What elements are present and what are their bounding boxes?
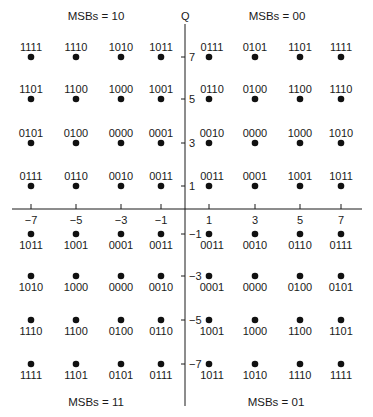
point-bit-label: 0110 (64, 170, 88, 182)
constellation-point: 1110 (20, 317, 43, 337)
constellation-point: 0101 (109, 361, 133, 381)
point-dot-icon (206, 54, 213, 61)
constellation-point: 1011 (19, 231, 43, 251)
constellation-point: 1000 (243, 317, 267, 337)
constellation-point: 1110 (65, 41, 88, 60)
point-dot-icon (158, 54, 165, 61)
point-dot-icon (206, 96, 213, 103)
constellation-point: 1111 (330, 41, 352, 60)
constellation-point: 1011 (149, 41, 173, 60)
x-tick-label: 7 (338, 214, 344, 226)
y-tick-label: 1 (189, 180, 195, 192)
point-bit-label: 1110 (20, 325, 43, 337)
constellation-point: 1101 (329, 317, 353, 337)
point-bit-label: 1010 (243, 369, 267, 381)
constellation-diagram: Q −7−5−3−11357 7531−1−3−5−7 MSBs = 10 MS… (0, 0, 373, 417)
constellation-point: 1010 (19, 273, 43, 293)
point-dot-icon (297, 96, 304, 103)
point-dot-icon (118, 231, 125, 238)
point-dot-icon (28, 273, 35, 280)
constellation-point: 1100 (288, 83, 312, 102)
constellation-point: 1001 (200, 317, 224, 337)
point-bit-label: 0111 (150, 369, 173, 381)
constellation-point: 1100 (288, 317, 312, 337)
point-dot-icon (252, 273, 259, 280)
constellation-point: 0000 (243, 273, 267, 293)
point-bit-label: 0101 (329, 281, 353, 293)
constellation-point: 0111 (330, 231, 353, 251)
constellation-point: 0101 (19, 127, 43, 146)
point-dot-icon (158, 361, 165, 368)
point-bit-label: 1111 (330, 41, 352, 53)
constellation-point: 0001 (109, 231, 133, 251)
point-dot-icon (158, 96, 165, 103)
quadrant-label-top-right: MSBs = 00 (249, 10, 306, 22)
point-bit-label: 0011 (200, 170, 224, 182)
point-bit-label: 0000 (243, 281, 267, 293)
x-tick-label: 1 (206, 214, 212, 226)
point-bit-label: 1010 (109, 41, 133, 53)
constellation-point: 1111 (330, 361, 352, 381)
point-dot-icon (252, 140, 259, 147)
point-dot-icon (28, 96, 35, 103)
point-dot-icon (158, 231, 165, 238)
point-bit-label: 0111 (330, 239, 353, 251)
point-dot-icon (338, 317, 345, 324)
point-bit-label: 1011 (19, 239, 43, 251)
point-dot-icon (338, 54, 345, 61)
constellation-point: 0010 (149, 273, 173, 293)
point-dot-icon (206, 273, 213, 280)
constellation-point: 1110 (330, 83, 353, 102)
point-bit-label: 0111 (201, 41, 224, 53)
constellation-point: 0010 (200, 127, 224, 146)
constellation-point: 0100 (243, 83, 267, 102)
point-bit-label: 0010 (200, 127, 224, 139)
point-dot-icon (338, 140, 345, 147)
point-dot-icon (28, 231, 35, 238)
constellation-point: 0110 (149, 317, 173, 337)
point-bit-label: 0101 (109, 369, 133, 381)
quadrant-label-top-left: MSBs = 10 (68, 10, 125, 22)
point-bit-label: 0111 (20, 170, 43, 182)
constellation-point: 0111 (150, 361, 173, 381)
point-bit-label: 1100 (288, 325, 312, 337)
y-tick-label: 3 (189, 137, 195, 149)
quadrant-label-bottom-right: MSBs = 01 (248, 396, 305, 408)
point-bit-label: 0001 (149, 127, 173, 139)
point-bit-label: 1110 (289, 369, 312, 381)
constellation-point: 1000 (64, 273, 88, 293)
point-dot-icon (73, 96, 80, 103)
x-tick-label: −1 (155, 214, 168, 226)
point-dot-icon (338, 183, 345, 190)
point-bit-label: 0110 (200, 83, 224, 95)
point-dot-icon (252, 96, 259, 103)
point-bit-label: 1011 (149, 41, 173, 53)
point-dot-icon (158, 317, 165, 324)
x-tick-label: −7 (25, 214, 38, 226)
y-tick-label: 5 (189, 93, 195, 105)
point-bit-label: 0001 (243, 170, 267, 182)
point-bit-label: 0011 (149, 239, 173, 251)
point-bit-label: 0101 (243, 41, 267, 53)
point-bit-label: 0100 (109, 325, 133, 337)
constellation-point: 0100 (288, 273, 312, 293)
q-axis-label: Q (181, 10, 190, 22)
point-dot-icon (118, 317, 125, 324)
point-bit-label: 0000 (109, 281, 133, 293)
constellation-point: 1010 (329, 127, 353, 146)
x-ticks: −7−5−3−11357 (25, 204, 344, 226)
point-dot-icon (158, 273, 165, 280)
constellation-point: 0011 (149, 170, 173, 189)
constellation-point: 0110 (64, 170, 88, 189)
constellation-point: 1001 (64, 231, 88, 251)
point-bit-label: 0000 (243, 127, 267, 139)
point-dot-icon (297, 183, 304, 190)
point-bit-label: 1001 (64, 239, 88, 251)
point-dot-icon (28, 361, 35, 368)
point-bit-label: 1001 (200, 325, 224, 337)
constellation-point: 1101 (64, 361, 88, 381)
constellation-point: 1111 (20, 41, 42, 60)
constellation-point: 0000 (109, 273, 133, 293)
point-bit-label: 0010 (109, 170, 133, 182)
point-bit-label: 0110 (149, 325, 173, 337)
